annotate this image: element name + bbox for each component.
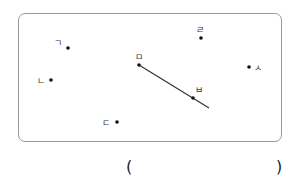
point-b (191, 96, 195, 100)
point-label-g: ㄱ (54, 38, 62, 48)
point-s (247, 65, 251, 69)
point-d (115, 120, 119, 124)
point-label-d: ㄷ (102, 118, 110, 128)
answer-row: ( ) (0, 155, 294, 179)
point-label-m: ㅁ (135, 52, 143, 62)
point-n (49, 78, 53, 82)
point-g (66, 46, 70, 50)
point-r (199, 36, 203, 40)
point-label-n: ㄴ (37, 76, 45, 86)
points-group: ㄱㄴㄷㄹㅁㅂㅅ (37, 25, 262, 128)
point-m (137, 63, 141, 67)
point-label-r: ㄹ (196, 25, 204, 35)
point-label-b: ㅂ (195, 85, 203, 95)
answer-blank[interactable] (140, 155, 270, 179)
point-label-s: ㅅ (254, 63, 262, 73)
close-paren: ) (276, 155, 282, 179)
open-paren: ( (126, 155, 132, 179)
